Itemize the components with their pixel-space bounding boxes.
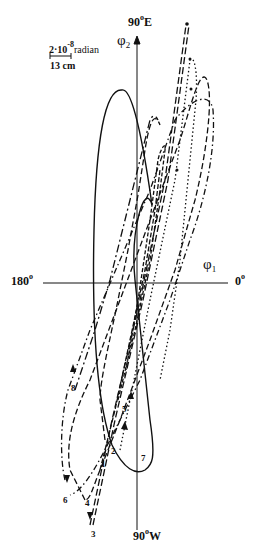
axis-label-left: 180o [11,272,33,289]
bottom-label-dir: W [149,529,161,543]
curve-label-1: 1 [101,459,106,469]
curve-label-6: 6 [63,495,68,505]
curve-label-4: 4 [85,498,90,508]
phi2-sub: 2 [126,40,131,50]
phi1-symbol: φ [203,256,212,272]
axis-symbol-phi2: φ2 [117,32,130,50]
phi2-symbol: φ [117,32,126,48]
left-label-degree: o [29,272,33,281]
curve-label-8: 8 [71,383,76,393]
left-label-value: 180 [11,274,29,288]
arrow-up-icon [134,36,140,44]
scale-unit: radian [74,44,99,55]
markers [64,22,193,520]
curve-label-2: 2 [111,446,116,456]
right-label-degree: o [241,272,245,281]
scale-bar-value: 2·10-8radian [49,40,99,55]
trajectory-curves [62,25,214,525]
scale-exponent: -8 [67,40,74,49]
curve-label-7: 7 [141,453,146,463]
scale-bar-length: 13 cm [50,60,75,71]
curve-label-5: 5 [122,404,127,414]
phi1-sub: 1 [212,264,217,274]
trajectory-diagram [0,0,258,547]
curve-6 [62,99,214,495]
axis-label-top: 90oE [128,13,152,30]
top-label-dir: E [144,15,152,29]
axis-label-right: 0o [235,272,245,289]
scale-value: 2·10 [49,44,67,55]
bottom-label-value: 90 [133,529,145,543]
axis-label-bottom: 90oW [133,527,161,544]
axis-symbol-phi1: φ1 [203,256,216,274]
top-label-value: 90 [128,15,140,29]
curve-label-3: 3 [91,529,96,539]
